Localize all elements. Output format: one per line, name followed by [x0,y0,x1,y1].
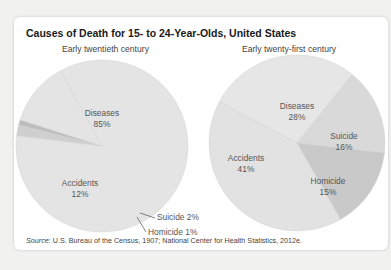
right-value-accidents: 41% [238,164,255,174]
left-value-diseases: 85% [94,119,111,129]
right-value-suicide: 16% [336,142,353,152]
left-label-suicide: Suicide 2% [157,212,199,222]
left-label-diseases: Diseases [85,108,119,118]
left-label-homicide: Homicide 1% [148,227,198,237]
right-label-suicide: Suicide [330,131,358,141]
right-label-diseases: Diseases [280,101,314,111]
pie-charts: Diseases85%Suicide 2%Homicide 1%Accident… [0,0,391,270]
left-label-accidents: Accidents [62,178,98,188]
right-label-accidents: Accidents [228,153,264,163]
left-value-accidents: 12% [72,189,89,199]
right-value-homicide: 15% [320,187,337,197]
right-value-diseases: 28% [289,112,306,122]
right-label-homicide: Homicide [311,176,346,186]
